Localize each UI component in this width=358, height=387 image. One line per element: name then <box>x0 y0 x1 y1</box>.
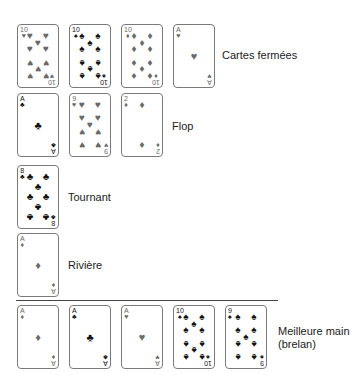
diamonds-pip-icon: ♦ <box>137 100 147 110</box>
clubs-icon: ♣ <box>72 314 77 320</box>
hearts-icon: ♥ <box>207 73 212 79</box>
card-2-of-diamonds: 2♦2♦♦♦ <box>121 93 163 157</box>
separator-line <box>16 300 278 301</box>
clubs-pip-icon: ♣ <box>41 212 51 222</box>
card-index-top-left: A♣ <box>20 96 25 108</box>
card-index-top-left: 9♥ <box>72 96 76 108</box>
diamonds-pip-icon: ♦ <box>129 71 139 81</box>
spades-pip-icon: ♠ <box>249 352 259 362</box>
clubs-pip-icon: ♣ <box>33 120 43 130</box>
hearts-pip-icon: ♥ <box>77 100 87 110</box>
spades-icon: ♠ <box>228 314 232 320</box>
card-9-of-hearts: 9♥9♥♥♥♥♥♥♥♥♥♥ <box>69 93 111 157</box>
label-flop: Flop <box>172 120 193 133</box>
card-a-of-clubs: A♣A♣♣ <box>17 93 59 157</box>
card-10-of-spades: 10♠10♠♠♠♠♠♠♠♠♠♠♠ <box>173 305 215 369</box>
card-index-bottom-right: A♥ <box>155 354 160 366</box>
clubs-icon: ♣ <box>20 174 25 180</box>
card-10-of-diamonds: 10♦10♦♦♦♦♦♦♦♦♦♦♦ <box>121 24 163 88</box>
card-index-bottom-right: A♣ <box>51 142 56 154</box>
hearts-pip-icon: ♥ <box>41 44 51 54</box>
diamonds-icon: ♦ <box>156 142 160 148</box>
spades-pip-icon: ♠ <box>197 325 207 335</box>
card-index-bottom-right: 9♠ <box>260 354 264 366</box>
spades-pip-icon: ♠ <box>93 44 103 54</box>
spades-pip-icon: ♠ <box>77 71 87 81</box>
card-10-of-spades: 10♠10♠♠♠♠♠♠♠♠♠♠♠ <box>69 24 111 88</box>
spades-pip-icon: ♠ <box>197 352 207 362</box>
label-river: Rivière <box>68 259 102 272</box>
card-a-of-hearts: A♥A♥♥ <box>173 24 215 88</box>
hearts-pip-icon: ♥ <box>41 71 51 81</box>
label-best-hand-title: Meilleure main <box>278 325 350 337</box>
spades-icon: ♠ <box>260 354 264 360</box>
diamonds-icon: ♦ <box>20 242 25 248</box>
card-10-of-hearts: 10♥10♥♥♥♥♥♥♥♥♥♥♥ <box>17 24 59 88</box>
card-index-top-left: 2♦ <box>124 96 128 108</box>
card-8-of-clubs: 8♣8♣♣♣♣♣♣♣♣♣ <box>17 165 59 229</box>
spades-pip-icon: ♠ <box>233 339 243 349</box>
clubs-pip-icon: ♣ <box>41 192 51 202</box>
card-index-bottom-right: A♦ <box>51 354 56 366</box>
spades-pip-icon: ♠ <box>249 339 259 349</box>
spades-pip-icon: ♠ <box>181 325 191 335</box>
spades-pip-icon: ♠ <box>249 312 259 322</box>
diamonds-icon: ♦ <box>124 102 128 108</box>
card-a-of-hearts: A♥A♥♥ <box>121 305 163 369</box>
hearts-pip-icon: ♥ <box>25 71 35 81</box>
clubs-pip-icon: ♣ <box>41 172 51 182</box>
spades-pip-icon: ♠ <box>181 352 191 362</box>
card-index-top-left: 8♣ <box>20 168 25 180</box>
spades-pip-icon: ♠ <box>93 71 103 81</box>
diamonds-pip-icon: ♦ <box>33 332 43 342</box>
clubs-icon: ♣ <box>51 142 56 148</box>
diamonds-pip-icon: ♦ <box>137 140 147 150</box>
clubs-pip-icon: ♣ <box>33 182 43 192</box>
hearts-icon: ♥ <box>155 354 160 360</box>
hearts-pip-icon: ♥ <box>189 51 199 61</box>
label-best-hand-subtitle: (brelan) <box>278 338 316 350</box>
card-index-top-left: A♣ <box>72 308 77 320</box>
label-turn: Tournant <box>68 191 111 204</box>
diamonds-pip-icon: ♦ <box>145 71 155 81</box>
card-index-bottom-right: 9♥ <box>104 142 108 154</box>
hearts-pip-icon: ♥ <box>93 100 103 110</box>
clubs-pip-icon: ♣ <box>33 202 43 212</box>
hearts-pip-icon: ♥ <box>77 140 87 150</box>
card-index-bottom-right: A♣ <box>103 354 108 366</box>
diamonds-icon: ♦ <box>20 314 25 320</box>
hearts-pip-icon: ♥ <box>93 127 103 137</box>
clubs-icon: ♣ <box>20 102 25 108</box>
card-index-top-left: A♦ <box>20 308 25 320</box>
card-index-top-left: A♦ <box>20 236 25 248</box>
card-index-bottom-right: 8♣ <box>51 214 56 226</box>
card-index-top-left: A♥ <box>124 308 129 320</box>
hearts-icon: ♥ <box>104 142 108 148</box>
card-index-bottom-right: A♥ <box>207 73 212 85</box>
card-index-bottom-right: A♦ <box>51 282 56 294</box>
clubs-pip-icon: ♣ <box>25 212 35 222</box>
hearts-pip-icon: ♥ <box>93 140 103 150</box>
hearts-pip-icon: ♥ <box>137 332 147 342</box>
spades-pip-icon: ♠ <box>77 44 87 54</box>
clubs-pip-icon: ♣ <box>25 172 35 182</box>
hearts-icon: ♥ <box>176 33 181 39</box>
hearts-pip-icon: ♥ <box>77 127 87 137</box>
hearts-icon: ♥ <box>124 314 129 320</box>
diamonds-pip-icon: ♦ <box>145 44 155 54</box>
spades-pip-icon: ♠ <box>233 312 243 322</box>
card-a-of-diamonds: A♦A♦♦ <box>17 233 59 297</box>
clubs-pip-icon: ♣ <box>85 332 95 342</box>
card-a-of-diamonds: A♦A♦♦ <box>17 305 59 369</box>
clubs-pip-icon: ♣ <box>25 192 35 202</box>
card-index-top-left: A♥ <box>176 27 181 39</box>
clubs-icon: ♣ <box>103 354 108 360</box>
hearts-pip-icon: ♥ <box>25 44 35 54</box>
label-best-hand: Meilleure main (brelan) <box>278 325 350 351</box>
card-index-bottom-right: 2♦ <box>156 142 160 154</box>
spades-pip-icon: ♠ <box>233 352 243 362</box>
card-9-of-spades: 9♠9♠♠♠♠♠♠♠♠♠♠ <box>225 305 267 369</box>
card-a-of-clubs: A♣A♣♣ <box>69 305 111 369</box>
label-hole-cards: Cartes fermées <box>222 49 297 62</box>
clubs-icon: ♣ <box>51 214 56 220</box>
